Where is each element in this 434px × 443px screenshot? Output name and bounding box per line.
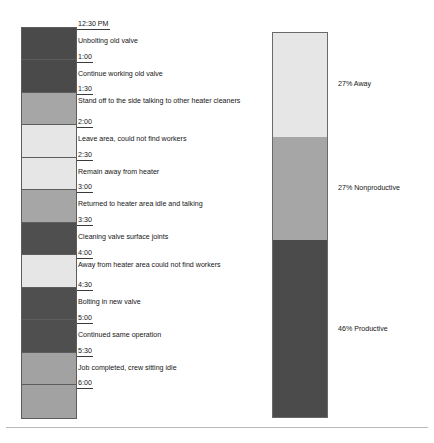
timeline-block-away xyxy=(22,255,76,287)
bar-segment-label: 27% Nonproductive xyxy=(338,184,400,193)
timeline-time-label: 5:00 xyxy=(77,314,93,324)
timeline-row: 2:30Remain away from heater xyxy=(77,158,262,191)
timeline-activity-text: Continue working old valve xyxy=(78,70,260,79)
timeline-time-label: 12:30 PM xyxy=(77,20,110,30)
timeline-block-productive xyxy=(22,288,76,320)
timeline-block-nonproductive xyxy=(22,190,76,222)
timeline-block-productive xyxy=(22,223,76,255)
timeline-row: 12:30 PMUnbolting old valve xyxy=(77,27,262,60)
timeline-time-label: 4:00 xyxy=(77,249,93,259)
timeline-row: 5:00Continued same operation xyxy=(77,321,262,354)
timeline-block-productive xyxy=(22,28,76,60)
timeline-activity-text: Job completed, crew sitting idle xyxy=(78,364,260,373)
timeline-time-label: 4:30 xyxy=(77,281,93,291)
timeline-block-productive xyxy=(22,320,76,352)
timeline-time-label: 2:00 xyxy=(77,118,93,128)
timeline-activity-text: Cleaning valve surface joints xyxy=(78,233,260,242)
timeline-time-label: 2:30 xyxy=(77,151,93,161)
timeline-activity-text: Leave area, could not find workers xyxy=(78,135,260,144)
timeline-activity-text: Bolting in new valve xyxy=(78,298,260,307)
timeline-time-label: 1:30 xyxy=(77,85,93,95)
timeline-row: 3:30Cleaning valve surface joints xyxy=(77,223,262,256)
bar-segment-away xyxy=(273,33,327,137)
timeline-row: 4:30Bolting in new valve xyxy=(77,288,262,321)
timeline-time-label: 1:00 xyxy=(77,53,93,63)
bottom-divider xyxy=(6,427,428,428)
timeline-row: 6:00 xyxy=(77,386,262,419)
timeline-activity-text: Continued same operation xyxy=(78,331,260,340)
timeline-activity-text: Returned to heater area idle and talking xyxy=(78,200,260,209)
stacked-bar-chart xyxy=(272,32,328,418)
timeline-block-away xyxy=(22,125,76,157)
bar-segment-label: 46% Productive xyxy=(338,325,388,334)
timeline-time-label: 6:00 xyxy=(77,379,93,389)
timeline-time-label: 3:00 xyxy=(77,183,93,193)
bar-segment-label: 27% Away xyxy=(338,80,371,89)
timeline-block-nonproductive xyxy=(22,93,76,125)
timeline-panel: 12:30 PMUnbolting old valve1:00Continue … xyxy=(0,0,262,443)
bar-segment-productive xyxy=(273,240,327,417)
timeline-row: 5:30Job completed, crew sitting idle xyxy=(77,354,262,387)
timeline-activity-text: Stand off to the side talking to other h… xyxy=(78,97,260,106)
timeline-row: 2:00Leave area, could not find workers xyxy=(77,125,262,158)
timeline-row: 3:00Returned to heater area idle and tal… xyxy=(77,190,262,223)
timeline-block-nonproductive xyxy=(22,353,76,385)
timeline-block-productive xyxy=(22,60,76,92)
timeline-time-label: 5:30 xyxy=(77,347,93,357)
timeline-color-strip xyxy=(21,27,77,419)
utilization-summary-panel: 27% Away27% Nonproductive46% Productive xyxy=(262,0,434,443)
timeline-block-nonproductive xyxy=(22,385,76,417)
timeline-row: 1:00Continue working old valve xyxy=(77,60,262,93)
timeline-activity-text: Remain away from heater xyxy=(78,168,260,177)
bar-segment-nonproductive xyxy=(273,137,327,241)
timeline-row: 1:30Stand off to the side talking to oth… xyxy=(77,92,262,125)
timeline-block-away xyxy=(22,158,76,190)
timeline-activity-text: Away from heater area could not find wor… xyxy=(78,261,260,270)
timeline-time-label: 3:30 xyxy=(77,216,93,226)
timeline-row: 4:00Away from heater area could not find… xyxy=(77,256,262,289)
timeline-rows-list: 12:30 PMUnbolting old valve1:00Continue … xyxy=(77,27,262,419)
timeline-activity-text: Unbolting old valve xyxy=(78,37,260,46)
